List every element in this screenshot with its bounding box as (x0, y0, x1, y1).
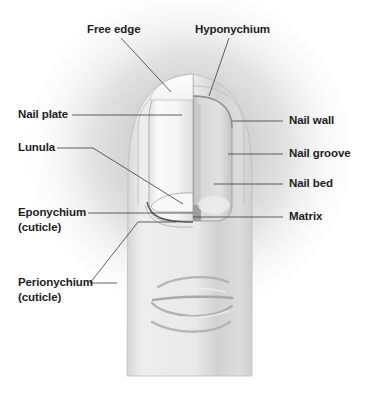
label-nail-groove: Nail groove (289, 146, 351, 161)
label-matrix: Matrix (289, 209, 322, 224)
label-perionychium: Perionychium (18, 275, 93, 290)
label-nail-wall: Nail wall (289, 113, 334, 128)
finger-illustration (0, 0, 367, 394)
label-lunula: Lunula (18, 140, 55, 155)
label-nail-plate: Nail plate (18, 107, 68, 122)
label-free-edge: Free edge (87, 22, 140, 37)
bed-lunula (198, 196, 230, 214)
label-eponychium: Eponychium (18, 205, 86, 220)
nail-anatomy-diagram: Free edge Hyponychium Nail plate Lunula … (0, 0, 367, 394)
label-eponychium-sub: (cuticle) (18, 220, 61, 235)
label-perionychium-sub: (cuticle) (18, 290, 61, 305)
label-hyponychium: Hyponychium (195, 22, 270, 37)
label-nail-bed: Nail bed (289, 176, 333, 191)
